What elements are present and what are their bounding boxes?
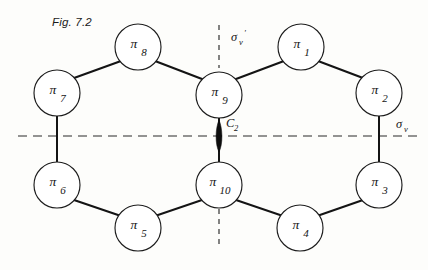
c2-axis-label: C 2 <box>226 116 239 133</box>
node-pi2[interactable]: π 2 <box>356 70 402 116</box>
bond-pi7-pi8 <box>74 61 121 78</box>
pi-orbital-symmetry-diagram: Fig. 7.2 π 1 <box>0 0 428 270</box>
figure-caption: Fig. 7.2 <box>52 16 92 28</box>
node-pi9[interactable]: π 9 <box>196 72 242 118</box>
node-pi2-circle[interactable] <box>356 70 402 116</box>
node-pi1[interactable]: π 1 <box>278 24 324 70</box>
sigma-v-prime-label: σ v ′ <box>231 28 246 47</box>
node-pi10[interactable]: π 10 <box>196 162 242 208</box>
node-pi4[interactable]: π 4 <box>277 205 323 251</box>
node-pi6-circle[interactable] <box>34 162 80 208</box>
node-pi1-subscript: 1 <box>304 46 310 58</box>
sigma-v-prime-subscript: v <box>239 37 243 47</box>
node-pi7-circle[interactable] <box>34 70 80 116</box>
bond-pi8-pi9 <box>155 61 202 79</box>
c2-subscript: 2 <box>234 123 239 133</box>
node-pi1-circle[interactable] <box>278 24 324 70</box>
sigma-v-label: σ v <box>396 117 408 134</box>
bond-pi3-pi4 <box>317 200 363 216</box>
node-pi7-subscript: 7 <box>60 92 66 104</box>
node-pi8[interactable]: π 8 <box>115 24 161 70</box>
node-pi3[interactable]: π 3 <box>356 162 402 208</box>
c2-axis-marker <box>216 120 222 152</box>
node-pi3-subscript: 3 <box>381 184 388 196</box>
node-pi4-circle[interactable] <box>277 205 323 251</box>
node-pi5-circle[interactable] <box>115 205 161 251</box>
node-pi8-subscript: 8 <box>141 46 147 58</box>
node-pi5-subscript: 5 <box>141 227 147 239</box>
node-pi3-circle[interactable] <box>356 162 402 208</box>
node-pi10-subscript: 10 <box>220 184 232 196</box>
figure-container: Fig. 7.2 π 1 <box>0 0 428 270</box>
sigma-v-symbol: σ <box>396 117 403 131</box>
node-pi4-subscript: 4 <box>303 227 309 239</box>
bond-pi10-pi5 <box>155 200 202 216</box>
node-pi7[interactable]: π 7 <box>34 70 80 116</box>
bond-pi9-pi1 <box>236 61 284 79</box>
node-pi9-circle[interactable] <box>196 72 242 118</box>
sigma-v-subscript: v <box>404 124 408 134</box>
sigma-v-prime-mark: ′ <box>244 28 246 38</box>
node-pi5[interactable]: π 5 <box>115 205 161 251</box>
bond-pi1-pi2 <box>318 61 363 78</box>
bond-pi5-pi6 <box>74 200 121 216</box>
node-pi6[interactable]: π 6 <box>34 162 80 208</box>
node-pi6-subscript: 6 <box>60 184 66 196</box>
sigma-v-prime-symbol: σ <box>231 30 238 44</box>
node-pi9-subscript: 9 <box>222 94 228 106</box>
bond-pi4-pi10 <box>236 200 283 216</box>
node-pi2-subscript: 2 <box>382 92 388 104</box>
node-pi8-circle[interactable] <box>115 24 161 70</box>
